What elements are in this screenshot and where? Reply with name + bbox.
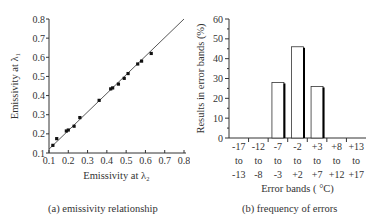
category-label-mid: to (254, 155, 262, 166)
category-label-bottom: -8 (254, 169, 262, 180)
category-label-top: +8 (331, 141, 342, 152)
category-label-bottom: +17 (348, 169, 364, 180)
y-tick-label: 40 (213, 53, 223, 64)
caption-b: (b) frequency of errors (242, 203, 337, 214)
y-tick-label: 0 (218, 133, 223, 144)
y-tick-label: 30 (213, 73, 223, 84)
y-tick-label: 10 (213, 113, 223, 124)
category-label-top: +3 (312, 141, 323, 152)
category-label-top: -2 (293, 141, 301, 152)
error-frequency-bar-chart: 0102030405060-17to-13-12to-8-7to-3-2to+2… (0, 0, 378, 221)
bar-plot-area: 0102030405060-17to-13-12to-8-7to-3-2to+2… (195, 14, 366, 196)
category-label-bottom: +12 (329, 169, 345, 180)
category-label-mid: to (274, 155, 282, 166)
category-label-top: +13 (348, 141, 364, 152)
bar-shadow (323, 87, 325, 138)
category-label-mid: to (333, 155, 341, 166)
category-label-top: -7 (274, 141, 282, 152)
y-tick-label: 50 (213, 33, 223, 44)
category-label-top: -17 (232, 141, 245, 152)
category-label-mid: to (294, 155, 302, 166)
bar-shadow (283, 83, 285, 138)
category-label-bottom: -3 (274, 169, 282, 180)
category-label-mid: to (313, 155, 321, 166)
category-label-mid: to (235, 155, 243, 166)
category-label-top: -12 (252, 141, 265, 152)
bar (292, 47, 304, 138)
bar-shadow (303, 48, 305, 138)
category-label-bottom: +2 (292, 169, 303, 180)
caption-a: (a) emissivity relationship (48, 203, 158, 214)
bar (272, 82, 284, 138)
category-label-mid: to (352, 155, 360, 166)
bar (311, 86, 323, 138)
y-tick-label: 60 (213, 14, 223, 25)
x-axis-label: Error bands ( °C) (261, 183, 334, 195)
y-tick-label: 20 (213, 93, 223, 104)
category-label-bottom: -13 (232, 169, 245, 180)
category-label-bottom: +7 (312, 169, 323, 180)
y-axis-label: Results in error bands (%) (195, 23, 207, 134)
